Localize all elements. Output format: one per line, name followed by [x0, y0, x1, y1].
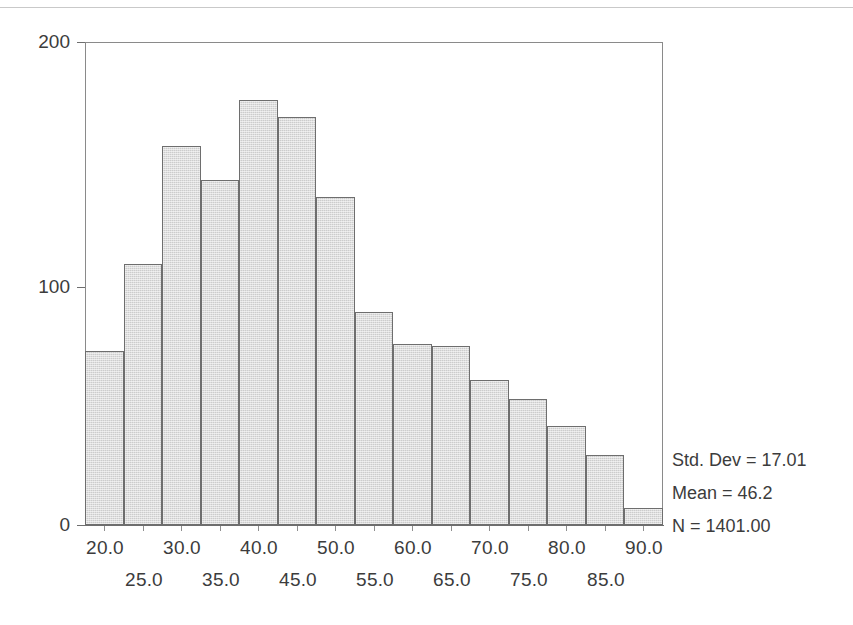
- histogram-bar[interactable]: [355, 312, 394, 525]
- x-axis-tick: [451, 526, 452, 531]
- histogram-bar[interactable]: [124, 264, 163, 525]
- x-axis-label-90: 90.0: [625, 537, 663, 559]
- histogram-bar[interactable]: [85, 351, 124, 525]
- x-axis-tick: [220, 526, 221, 531]
- x-axis-label-20: 20.0: [86, 537, 124, 559]
- y-axis-label-100: 100: [0, 276, 70, 298]
- x-axis-tick: [258, 526, 259, 531]
- x-axis-label-50: 50.0: [317, 537, 355, 559]
- x-axis-tick: [605, 526, 606, 531]
- x-axis-label-65: 65.0: [433, 569, 471, 591]
- x-axis-label-55: 55.0: [356, 569, 394, 591]
- y-axis-tick: [77, 287, 85, 288]
- y-axis-tick: [77, 525, 85, 526]
- std-dev-text: Std. Dev = 17.01: [672, 444, 847, 477]
- x-axis-label-35: 35.0: [202, 569, 240, 591]
- x-axis-label-70: 70.0: [471, 537, 509, 559]
- histogram-bar[interactable]: [586, 455, 625, 525]
- x-axis-tick: [528, 526, 529, 531]
- x-axis-tick: [143, 526, 144, 531]
- histogram-bar[interactable]: [162, 146, 201, 525]
- x-axis-label-30: 30.0: [163, 537, 201, 559]
- histogram-bar[interactable]: [470, 380, 509, 525]
- x-axis-label-80: 80.0: [548, 537, 586, 559]
- x-axis-tick: [297, 526, 298, 531]
- x-axis-tick: [104, 526, 105, 531]
- mean-text: Mean = 46.2: [672, 477, 847, 510]
- histogram-bar[interactable]: [278, 117, 317, 525]
- histogram-bar[interactable]: [316, 197, 355, 525]
- histogram-bar[interactable]: [547, 426, 586, 525]
- x-axis-tick: [181, 526, 182, 531]
- statistics-annotation: Std. Dev = 17.01 Mean = 46.2 N = 1401.00: [672, 444, 847, 543]
- histogram-bars: [85, 42, 663, 525]
- x-axis-label-45: 45.0: [279, 569, 317, 591]
- x-axis-tick: [489, 526, 490, 531]
- n-text: N = 1401.00: [672, 510, 847, 543]
- histogram-bar[interactable]: [624, 508, 663, 525]
- histogram-figure: 200 100 0 20.0 30.0 40.0 50.0 60.0 70.0 …: [0, 0, 853, 625]
- x-axis-label-60: 60.0: [394, 537, 432, 559]
- x-axis-tick: [566, 526, 567, 531]
- y-axis-label-0: 0: [0, 514, 70, 536]
- x-axis-tick: [374, 526, 375, 531]
- histogram-bar[interactable]: [432, 346, 471, 525]
- x-axis-tick: [412, 526, 413, 531]
- x-axis-label-85: 85.0: [587, 569, 625, 591]
- x-axis-label-25: 25.0: [125, 569, 163, 591]
- y-axis-label-200: 200: [0, 31, 70, 53]
- x-axis-tick: [643, 526, 644, 531]
- x-axis-tick: [335, 526, 336, 531]
- x-axis-label-75: 75.0: [510, 569, 548, 591]
- histogram-bar[interactable]: [393, 344, 432, 525]
- histogram-bar[interactable]: [239, 100, 278, 525]
- y-axis-tick: [77, 42, 85, 43]
- histogram-bar[interactable]: [509, 399, 548, 525]
- x-axis-label-40: 40.0: [240, 537, 278, 559]
- histogram-bar[interactable]: [201, 180, 240, 525]
